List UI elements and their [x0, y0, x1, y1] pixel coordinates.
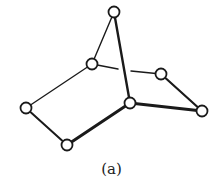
node-center — [125, 98, 136, 109]
node-bottom — [62, 140, 73, 151]
node-left — [21, 103, 32, 114]
edge-center-right — [130, 103, 202, 111]
node-right — [197, 106, 208, 117]
figure-caption: (a) — [0, 160, 223, 178]
edge-top-center — [114, 12, 130, 103]
edge-bottom-center — [67, 103, 130, 145]
node-top — [109, 7, 120, 18]
edge-top-upper-left — [92, 12, 114, 64]
edge-left-bottom — [26, 108, 67, 145]
node-right-upper — [156, 69, 167, 80]
node-upper-left — [87, 59, 98, 70]
edge-upper-left-left — [26, 64, 92, 108]
edge-right-upper-right — [161, 74, 202, 111]
